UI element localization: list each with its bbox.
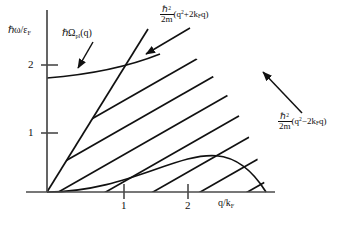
upper-boundary-body-pre: (q [174, 9, 182, 19]
x-tick-label-1: 1 [121, 200, 127, 211]
y-tick-label-1: 1 [28, 127, 34, 138]
upper-boundary-fraction: ℏ2 2m [160, 5, 174, 24]
upper-boundary-body-mid: +2k [184, 9, 198, 19]
y-axis-label-text: ℏω/ε [8, 24, 28, 35]
y-axis-label: ℏω/εF [8, 25, 31, 36]
lower-boundary-fraction: ℏ2 2m [278, 112, 292, 131]
plasmon-label-post: (q) [80, 27, 92, 38]
lower-boundary-label: ℏ2 2m (q2−2kFq) [278, 112, 327, 131]
lower-boundary-denominator: 2m [278, 122, 292, 131]
lower-boundary-num-sup: 2 [286, 112, 289, 118]
lower-boundary-body-mid: −2k [302, 116, 316, 126]
plasmon-leader-arrow [78, 42, 93, 68]
lower-boundary-body-pre: (q [292, 116, 300, 126]
plasmon-label-pre: ℏΩ [62, 27, 75, 38]
x-axis-label-text: q/k [218, 197, 231, 208]
upper-boundary-leader-arrow [146, 28, 190, 54]
x-axis-label: q/kF [218, 198, 234, 209]
x-axis-label-sub: F [231, 202, 234, 209]
plasmon-dispersion-curve [47, 54, 160, 78]
upper-boundary-denominator: 2m [160, 15, 174, 24]
upper-boundary-body-post: q) [201, 9, 209, 19]
plasmon-label: ℏΩpl(q) [62, 28, 92, 39]
x-tick-label-2: 2 [185, 200, 191, 211]
upper-boundary-num-sup: 2 [168, 5, 171, 11]
upper-boundary-curve [47, 29, 148, 192]
upper-boundary-label: ℏ2 2m (q2+2kFq) [160, 5, 209, 24]
figure-container: ℏω/εF q/kF 1 2 1 2 ℏΩpl(q) ℏ2 2m (q2+2kF… [0, 0, 361, 236]
y-tick-label-2: 2 [28, 59, 34, 70]
lower-boundary-leader-arrow [263, 72, 302, 113]
y-axis-label-sub: F [28, 29, 31, 36]
lower-boundary-body-post: q) [319, 116, 327, 126]
